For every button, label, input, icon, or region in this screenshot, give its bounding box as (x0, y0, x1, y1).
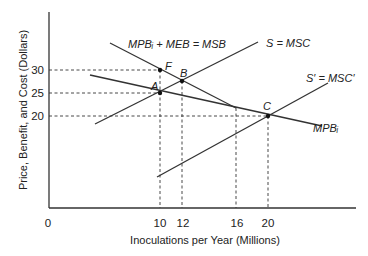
point-c (266, 114, 270, 118)
y-tick-25: 25 (31, 87, 44, 99)
point-a (158, 91, 162, 95)
label-msc: S = MSC (266, 37, 310, 49)
point-b (180, 79, 184, 83)
msc-prime-curve (157, 83, 328, 177)
y-tick-30: 30 (31, 64, 44, 76)
origin-label: 0 (45, 217, 51, 229)
economics-diagram: F A B C MPBᵢ + MEB = MSB S = MSC S′ = MS… (0, 0, 368, 256)
x-tick-10: 10 (154, 217, 167, 229)
label-f: F (165, 60, 173, 72)
msc-curve (95, 42, 258, 124)
x-tick-16: 16 (231, 217, 244, 229)
y-tick-20: 20 (31, 110, 44, 122)
label-msb: MPBᵢ + MEB = MSB (128, 38, 226, 50)
y-axis-label: Price, Benefit, and Cost (Dollars) (17, 30, 29, 190)
mpb-curve (90, 75, 322, 126)
label-a: A (150, 80, 158, 92)
msb-curve (110, 43, 236, 108)
x-axis-label: Inoculations per Year (Millions) (130, 234, 280, 246)
label-b: B (180, 67, 187, 79)
label-msc-prime: S′ = MSC′ (306, 72, 355, 84)
x-tick-20: 20 (262, 217, 275, 229)
x-tick-12: 12 (177, 217, 190, 229)
point-f (158, 68, 162, 72)
label-c: C (263, 100, 271, 112)
label-mpb: MPBᵢ (313, 122, 339, 134)
